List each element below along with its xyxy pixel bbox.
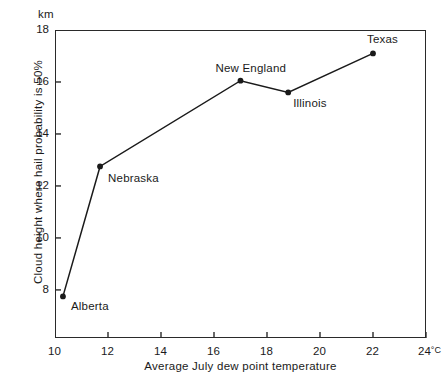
point-label-texas: Texas: [367, 33, 398, 45]
point-label-new-england: New England: [216, 62, 287, 74]
x-axis-tick-16: 16: [207, 345, 220, 357]
x-axis-tick-22: 22: [366, 345, 379, 357]
x-axis-tick-24: 24°C: [418, 345, 441, 357]
y-axis-title: Cloud height where hail probability is 5…: [32, 22, 44, 322]
x-axis-title: Average July dew point temperature: [55, 360, 426, 372]
x-axis-tick-12: 12: [101, 345, 114, 357]
x-axis-tick-10: 10: [48, 345, 61, 357]
x-axis-tick-labels: 1012141618202224°C: [0, 0, 447, 381]
chart-figure: km 81012141618 1012141618202224°C Albert…: [0, 0, 447, 381]
x-axis-tick-20: 20: [313, 345, 326, 357]
x-axis-tick-18: 18: [260, 345, 273, 357]
point-label-nebraska: Nebraska: [108, 172, 159, 184]
point-label-alberta: Alberta: [71, 300, 109, 312]
x-axis-unit-label: °C: [431, 345, 441, 355]
x-axis-tick-14: 14: [154, 345, 167, 357]
point-label-illinois: Illinois: [293, 97, 327, 109]
